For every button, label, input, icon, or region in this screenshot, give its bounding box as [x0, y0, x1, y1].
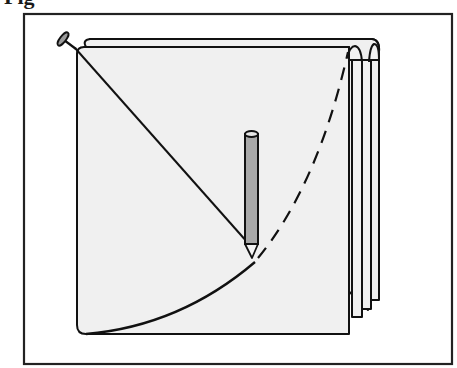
paper-sheet-2 [352, 47, 362, 317]
paper-stack [77, 39, 379, 334]
figure-diagram [0, 0, 457, 368]
pencil-icon [245, 131, 258, 258]
paper-sheet-front [77, 47, 349, 334]
